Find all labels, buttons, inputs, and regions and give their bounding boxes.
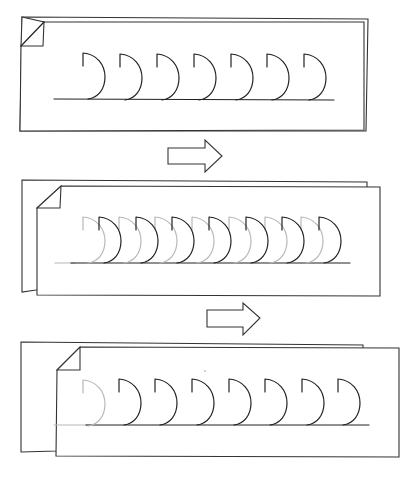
page-front: [37, 186, 380, 296]
panel-step-2: [22, 180, 380, 296]
page-front: [56, 347, 399, 457]
page-fold-corner: [21, 17, 44, 46]
arrow-right-icon: [207, 303, 260, 335]
arrow-right-icon: [168, 140, 222, 172]
panel-step-1: [20, 17, 368, 131]
panel-step-3: [21, 342, 399, 457]
stray-dot: [204, 370, 206, 372]
page-front: [20, 22, 364, 131]
diagram-canvas: [0, 0, 419, 478]
